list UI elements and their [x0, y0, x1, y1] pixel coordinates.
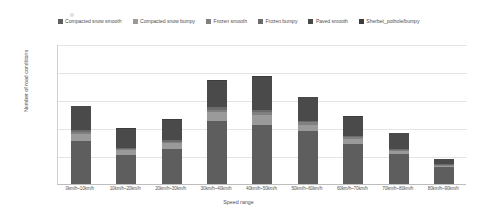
- legend-item[interactable]: Paved smooth: [308, 19, 347, 24]
- x-axis-title: Speed range: [0, 200, 477, 205]
- bar-stack[interactable]: [162, 119, 182, 184]
- x-axis-tick-label: 10km/h~20km/h: [102, 187, 147, 192]
- plot-area: [57, 45, 466, 185]
- scan-artifact-speck: [70, 13, 74, 17]
- bar-segment[interactable]: [252, 115, 272, 125]
- legend-swatch-icon: [58, 19, 63, 24]
- bar-segment[interactable]: [162, 149, 182, 184]
- x-axis-tick-label: 70km/h~80km/h: [375, 187, 420, 192]
- bar-group: [194, 44, 239, 184]
- legend-item-label: Paved smooth: [316, 19, 348, 24]
- bar-segment[interactable]: [252, 125, 272, 184]
- legend-item-label: Sherbet_pothole/bumpy: [366, 19, 419, 24]
- legend-item-label: Frozen smooth: [214, 19, 247, 24]
- bar-segment[interactable]: [71, 141, 91, 184]
- bar-stack[interactable]: [252, 76, 272, 184]
- legend-swatch-icon: [359, 19, 364, 24]
- x-axis-tick-labels: 0km/h~10km/h10km/h~20km/h20km/h~30km/h30…: [57, 187, 466, 192]
- x-axis-tick-label: 40km/h~50km/h: [239, 187, 284, 192]
- legend-item[interactable]: Sherbet_pothole/bumpy: [359, 19, 420, 24]
- bar-segment[interactable]: [207, 81, 227, 107]
- legend-item[interactable]: Compacted snow smooth: [58, 19, 122, 24]
- bar-stack[interactable]: [207, 80, 227, 184]
- bar-segment[interactable]: [343, 144, 363, 184]
- bar-group: [149, 44, 194, 184]
- bar-stack[interactable]: [71, 106, 91, 184]
- bar-segment[interactable]: [389, 154, 409, 184]
- bar-segment[interactable]: [207, 121, 227, 184]
- legend-swatch-icon: [258, 19, 263, 24]
- x-axis-tick-label: 80km/h~90km/h: [421, 187, 466, 192]
- bar-series-container: [58, 44, 467, 184]
- legend-item[interactable]: Compacted snow bumpy: [133, 19, 196, 24]
- legend-item[interactable]: Frozen smooth: [206, 19, 247, 24]
- x-axis-tick-label: 50km/h~60km/h: [284, 187, 329, 192]
- bar-stack[interactable]: [116, 128, 136, 184]
- bar-segment[interactable]: [116, 155, 136, 184]
- legend-swatch-icon: [133, 19, 138, 24]
- legend-swatch-icon: [206, 19, 211, 24]
- stacked-bar-chart: Compacted snow smoothCompacted snow bump…: [0, 0, 477, 220]
- legend-item-label: Compacted snow bumpy: [140, 19, 195, 24]
- bar-segment[interactable]: [252, 77, 272, 110]
- bar-segment[interactable]: [298, 97, 318, 121]
- bar-segment[interactable]: [389, 133, 409, 149]
- bar-segment[interactable]: [434, 167, 454, 184]
- bar-group: [376, 44, 421, 184]
- bar-segment[interactable]: [116, 129, 136, 148]
- bar-segment[interactable]: [71, 106, 91, 130]
- chart-legend: Compacted snow smoothCompacted snow bump…: [0, 19, 477, 24]
- bar-segment[interactable]: [298, 125, 318, 132]
- bar-segment[interactable]: [162, 120, 182, 141]
- bar-group: [103, 44, 148, 184]
- legend-item-label: Compacted snow smooth: [65, 19, 121, 24]
- x-axis-tick-label: 0km/h~10km/h: [57, 187, 102, 192]
- bar-group: [422, 44, 467, 184]
- bar-stack[interactable]: [298, 97, 318, 184]
- bar-segment[interactable]: [343, 117, 363, 136]
- bar-group: [331, 44, 376, 184]
- bar-stack[interactable]: [343, 116, 363, 184]
- x-axis-tick-label: 20km/h~30km/h: [148, 187, 193, 192]
- x-axis-tick-label: 60km/h~70km/h: [330, 187, 375, 192]
- bar-segment[interactable]: [207, 112, 227, 120]
- bar-group: [58, 44, 103, 184]
- bar-group: [285, 44, 330, 184]
- bar-group: [240, 44, 285, 184]
- bar-segment[interactable]: [71, 134, 91, 141]
- x-axis-tick-label: 30km/h~40km/h: [193, 187, 238, 192]
- legend-item[interactable]: Frozen bumpy: [258, 19, 297, 24]
- legend-item-label: Frozen bumpy: [265, 19, 297, 24]
- y-axis-title: Number of road conditions: [24, 50, 29, 112]
- legend-swatch-icon: [308, 19, 313, 24]
- bar-stack[interactable]: [434, 159, 454, 184]
- bar-stack[interactable]: [389, 133, 409, 184]
- bar-segment[interactable]: [298, 131, 318, 184]
